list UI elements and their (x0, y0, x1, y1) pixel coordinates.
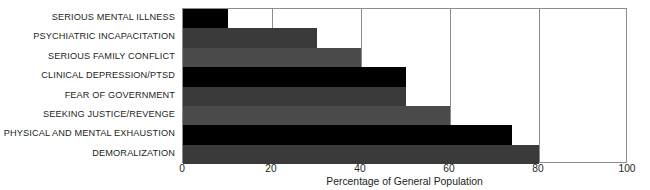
x-tick-label: 60 (443, 164, 454, 174)
bar-row (183, 125, 626, 144)
bar-chart: SERIOUS MENTAL ILLNESSPSYCHIATRIC INCAPA… (0, 0, 650, 190)
category-label: FEAR OF GOVERNMENT (65, 91, 175, 100)
bar-row (183, 145, 626, 164)
bar (183, 125, 512, 144)
plot-area (182, 8, 627, 163)
category-label: PHYSICAL AND MENTAL EXHAUSTION (4, 129, 175, 138)
category-label: SERIOUS MENTAL ILLNESS (52, 13, 175, 22)
bar (183, 9, 228, 28)
x-tick-label: 40 (354, 164, 365, 174)
x-axis-title: Percentage of General Population (182, 177, 627, 187)
bar (183, 67, 406, 86)
bar-row (183, 67, 626, 86)
x-tick-label: 20 (265, 164, 276, 174)
bar (183, 145, 539, 164)
bar-row (183, 9, 626, 28)
bar-row (183, 87, 626, 106)
category-label: PSYCHIATRIC INCAPACITATION (33, 32, 175, 41)
x-tick-label: 0 (179, 164, 185, 174)
category-axis-labels: SERIOUS MENTAL ILLNESSPSYCHIATRIC INCAPA… (0, 8, 178, 163)
bar (183, 28, 317, 47)
bar (183, 87, 406, 106)
category-label: DEMORALIZATION (92, 149, 175, 158)
bar (183, 106, 450, 125)
category-label: SERIOUS FAMILY CONFLICT (48, 52, 175, 61)
bar-row (183, 48, 626, 67)
bar (183, 48, 361, 67)
x-tick-label: 80 (532, 164, 543, 174)
bar-row (183, 106, 626, 125)
x-tick-label: 100 (619, 164, 636, 174)
category-label: CLINICAL DEPRESSION/PTSD (41, 71, 175, 80)
bar-row (183, 28, 626, 47)
category-label: SEEKING JUSTICE/REVENGE (43, 110, 175, 119)
bars-layer (183, 9, 626, 162)
